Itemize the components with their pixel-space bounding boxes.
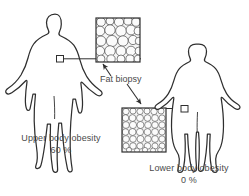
value-lower-body-percent: 0 % — [133, 175, 245, 186]
biopsy-site-marker-abdomen — [57, 56, 64, 63]
figure-canvas: Fat biopsy Upper body obesity 60 % Lower… — [0, 0, 249, 196]
biopsy-site-marker-hip — [181, 106, 188, 113]
biopsy-sample-lower — [122, 108, 166, 153]
biopsy-sample-upper — [95, 17, 143, 63]
fat-biopsy-label: Fat biopsy — [100, 74, 142, 84]
arrow-to-lower-sample — [127, 84, 141, 104]
caption-upper-body-obesity: Upper body obesity — [6, 133, 116, 144]
value-upper-body-percent: 60 % — [6, 145, 116, 156]
caption-lower-body-obesity: Lower body obesity — [133, 163, 245, 174]
